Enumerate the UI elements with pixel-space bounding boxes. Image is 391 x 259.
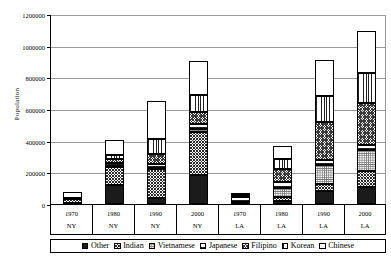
x-axis-category-band: 1970NY1980NY1990NY2000NY1970LA1980LA1990… xyxy=(50,205,386,235)
bar-segment-other[interactable] xyxy=(315,191,334,204)
bar-segment-chinese[interactable] xyxy=(63,192,82,198)
bar-group[interactable] xyxy=(357,14,376,204)
y-axis-tick-label: 0 xyxy=(42,202,45,209)
y-axis-title: Population xyxy=(13,64,21,144)
x-axis-year-label: 2000 xyxy=(359,211,372,218)
bar-segment-korean[interactable] xyxy=(357,73,376,103)
bar-segment-chinese[interactable] xyxy=(357,31,376,74)
x-axis-year-label: 1980 xyxy=(107,211,120,218)
bar-segment-japanese[interactable] xyxy=(189,124,208,129)
bar-segment-japanese[interactable] xyxy=(357,145,376,150)
bar-segment-filipino[interactable] xyxy=(315,122,334,161)
x-axis-cell: 1970LA xyxy=(218,205,260,235)
y-axis-tick-label: 1200000 xyxy=(22,12,45,19)
x-axis-city-label: NY xyxy=(109,223,118,230)
bar-segment-indian[interactable] xyxy=(357,171,376,188)
bar-segment-vietnamese[interactable] xyxy=(357,150,376,171)
bar-segment-korean[interactable] xyxy=(189,95,208,112)
bar-segment-filipino[interactable] xyxy=(273,169,292,182)
legend-item-korean[interactable]: Korean xyxy=(282,242,315,250)
x-axis-year-label: 1970 xyxy=(65,211,78,218)
bar-segment-filipino[interactable] xyxy=(147,154,166,164)
bar-group[interactable] xyxy=(105,14,124,204)
bar-group[interactable] xyxy=(63,14,82,204)
bar-segment-korean[interactable] xyxy=(147,139,166,154)
x-axis-city-label: LA xyxy=(319,223,328,230)
bar-segment-chinese[interactable] xyxy=(315,60,334,96)
x-axis-city-label: NY xyxy=(151,223,160,230)
bar-segment-indian[interactable] xyxy=(189,132,208,175)
x-axis-year-label: 1970 xyxy=(233,211,246,218)
bar-segment-japanese[interactable] xyxy=(105,163,124,166)
bar-group[interactable] xyxy=(231,14,250,204)
bar-segment-korean[interactable] xyxy=(105,155,124,159)
bar-segment-indian[interactable] xyxy=(273,197,292,201)
bar-group[interactable] xyxy=(147,14,166,204)
bar-segment-korean[interactable] xyxy=(315,96,334,121)
x-axis-year-label: 2000 xyxy=(191,211,204,218)
bar-segment-indian[interactable] xyxy=(315,184,334,190)
legend-item-label: Indian xyxy=(123,242,143,250)
x-axis-cell: 1980LA xyxy=(260,205,302,235)
legend-item-other[interactable]: Other xyxy=(82,242,109,250)
bar-segment-vietnamese[interactable] xyxy=(189,129,208,132)
bar-segment-vietnamese[interactable] xyxy=(315,165,334,184)
bar-segment-indian[interactable] xyxy=(63,199,82,203)
bar-group[interactable] xyxy=(315,14,334,204)
bar-segment-indian[interactable] xyxy=(147,169,166,198)
legend-item-label: Filipino xyxy=(251,242,276,250)
chart-root: Population 02000004000006000008000001000… xyxy=(0,0,391,259)
legend-item-filipino[interactable]: Filipino xyxy=(242,242,276,250)
legend-item-label: Korean xyxy=(291,242,315,250)
legend-item-indian[interactable]: Indian xyxy=(114,242,143,250)
x-axis-year-label: 1990 xyxy=(149,211,162,218)
bar-segment-other[interactable] xyxy=(105,185,124,204)
legend-item-vietnamese[interactable]: Vietnamese xyxy=(149,242,195,250)
bar-segment-indian[interactable] xyxy=(105,167,124,185)
y-axis-tick-label: 200000 xyxy=(26,170,46,177)
x-axis-cell: 2000NY xyxy=(176,205,218,235)
bar-segment-chinese[interactable] xyxy=(147,101,166,139)
x-axis-cell: 1990NY xyxy=(134,205,176,235)
bar-segment-other[interactable] xyxy=(357,187,376,204)
bar-layer xyxy=(51,15,386,204)
bar-group[interactable] xyxy=(273,14,292,204)
legend-item-label: Chinese xyxy=(328,242,354,250)
bar-segment-japanese[interactable] xyxy=(147,164,166,168)
x-axis-city-label: NY xyxy=(67,223,76,230)
bar-segment-filipino[interactable] xyxy=(189,112,208,124)
x-axis-cell: 2000LA xyxy=(344,205,386,235)
bar-segment-vietnamese[interactable] xyxy=(273,188,292,197)
bar-group[interactable] xyxy=(189,14,208,204)
bar-segment-japanese[interactable] xyxy=(315,160,334,165)
bar-segment-chinese[interactable] xyxy=(189,61,208,95)
x-axis-cell: 1990LA xyxy=(302,205,344,235)
bar-segment-korean[interactable] xyxy=(273,159,292,169)
bar-segment-filipino[interactable] xyxy=(357,103,376,145)
legend-swatch-horizontal-lines xyxy=(200,243,207,250)
x-axis-city-label: NY xyxy=(193,223,202,230)
bar-segment-other[interactable] xyxy=(189,175,208,204)
bar-segment-chinese[interactable] xyxy=(273,146,292,159)
y-axis-tick-label: 400000 xyxy=(26,138,46,145)
bar-segment-other[interactable] xyxy=(273,201,292,204)
legend-item-label: Other xyxy=(91,242,109,250)
bar-segment-chinese[interactable] xyxy=(231,193,250,195)
legend-swatch-solid-black xyxy=(82,243,89,250)
y-axis-tick-label: 1000000 xyxy=(22,43,45,50)
bar-segment-chinese[interactable] xyxy=(105,140,124,155)
x-axis-city-label: LA xyxy=(277,223,286,230)
legend-item-chinese[interactable]: Chinese xyxy=(319,242,354,250)
x-axis-year-label: 1990 xyxy=(317,211,330,218)
legend-item-japanese[interactable]: Japanese xyxy=(200,242,237,250)
legend-swatch-cross-hatch xyxy=(242,243,249,250)
bar-segment-japanese[interactable] xyxy=(273,182,292,188)
bar-segment-japanese[interactable] xyxy=(231,197,250,202)
legend-item-label: Vietnamese xyxy=(158,242,195,250)
bar-segment-other[interactable] xyxy=(147,198,166,204)
x-axis-city-label: LA xyxy=(361,223,370,230)
legend-swatch-white xyxy=(319,243,326,250)
legend-item-label: Japanese xyxy=(209,242,237,250)
bar-segment-filipino[interactable] xyxy=(105,159,124,163)
x-axis-cell: 1970NY xyxy=(50,205,92,235)
